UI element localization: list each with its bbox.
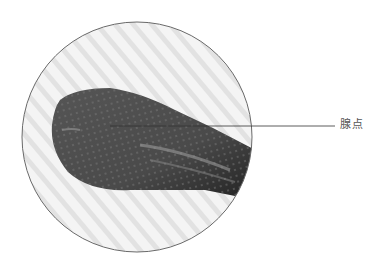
- gland-dot-label: 腺点: [340, 118, 364, 132]
- micrograph-figure: [0, 0, 390, 274]
